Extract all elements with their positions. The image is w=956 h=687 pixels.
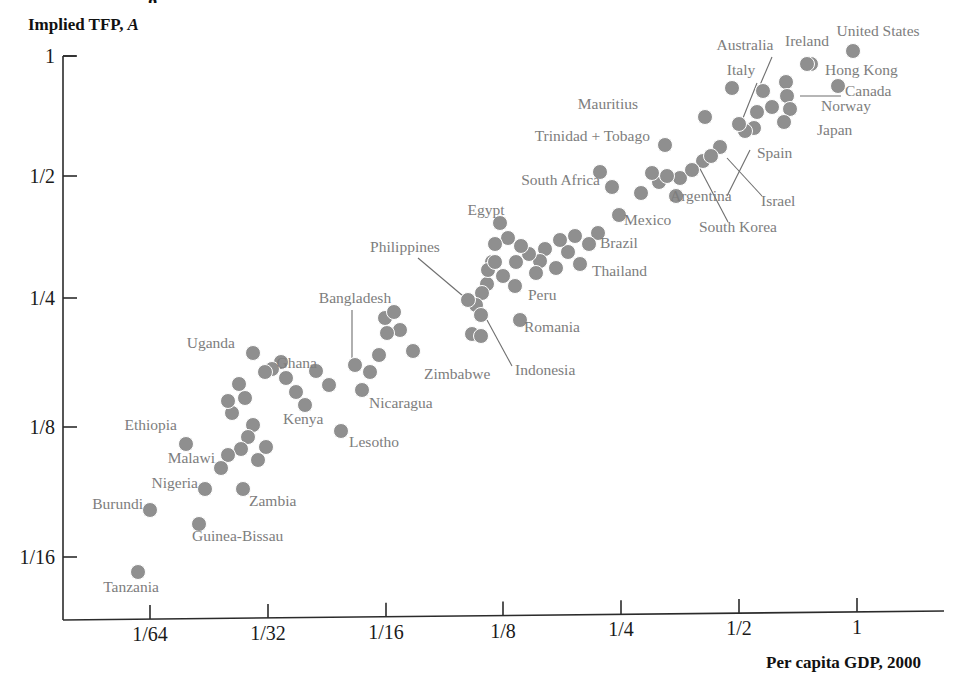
data-point [658,138,673,153]
point-label: Peru [528,286,557,303]
data-point [660,169,675,184]
x-axis-title: Per capita GDP, 2000 [766,653,921,672]
figure-container: g 11/21/41/81/16 1/641/321/161/81/41/21 … [0,0,956,687]
point-label: Guinea-Bissau [192,527,284,544]
point-label: Mexico [624,211,672,228]
leader-line [727,158,762,196]
data-point [334,424,349,439]
data-point [549,261,564,276]
data-point [756,84,771,99]
point-label: Ethiopia [124,416,177,433]
data-point [553,233,568,248]
data-point [634,186,649,201]
point-label: South Korea [699,218,777,235]
point-label: Mauritius [578,95,638,112]
data-point [698,110,713,125]
point-label: Ireland [785,32,829,49]
point-label: Romania [524,318,580,335]
point-label: Malawi [168,449,216,466]
point-label: Egypt [467,201,505,218]
point-label: Hong Kong [825,61,898,78]
data-point [246,346,261,361]
data-point [496,269,511,284]
data-point [214,461,229,476]
point-label: Lesotho [349,433,399,450]
data-point [221,394,236,409]
data-point [750,105,765,120]
data-point [406,344,421,359]
point-label: Italy [727,61,756,78]
scatter-plot: 11/21/41/81/16 1/641/321/161/81/41/21 Un… [0,0,956,687]
data-point [474,329,489,344]
data-point [258,365,273,380]
y-tick-label: 1/8 [29,416,55,438]
point-label: United States [836,22,919,39]
x-tick-label: 1/2 [726,617,752,639]
data-point [363,365,378,380]
y-axis-title-text: Implied TFP, [28,15,123,34]
data-point [279,371,294,386]
point-label: Argentina [670,187,732,204]
point-label: Norway [821,97,871,114]
data-point [372,348,387,363]
data-point [355,383,370,398]
data-point [509,255,524,270]
data-point [461,293,476,308]
x-tick-label: 1 [852,616,862,638]
point-label: Japan [817,121,853,138]
point-label: Spain [757,144,793,161]
point-label: Burundi [92,495,144,512]
data-point [143,503,158,518]
data-point [259,440,274,455]
data-point [765,100,780,115]
x-tick-label: 1/64 [132,623,168,645]
y-tick-label: 1/16 [19,546,55,568]
data-point [232,377,247,392]
data-point [238,391,253,406]
y-tick-label: 1 [45,45,55,67]
point-label: Ghana [277,354,318,371]
point-label: Uganda [187,334,235,351]
data-point [474,308,489,323]
x-tick-label: 1/4 [608,618,634,640]
data-point [251,453,266,468]
data-point [605,180,620,195]
data-point [582,237,597,252]
data-point [488,255,503,270]
point-label: Nigeria [152,474,199,491]
y-tick-group: 11/21/41/81/16 [19,45,77,568]
point-label: Israel [761,192,795,209]
y-axis-title-symbol: A [126,15,138,34]
data-point [348,358,363,373]
point-label: Brazil [600,234,638,251]
data-point [529,266,544,281]
data-point [846,44,861,59]
point-label: Philippines [370,238,440,255]
data-point [198,482,213,497]
data-point [322,378,337,393]
data-point [780,89,795,104]
data-point [289,385,304,400]
data-point [645,166,660,181]
point-label: Thailand [592,262,647,279]
data-point [514,239,529,254]
data-point [568,229,583,244]
point-label: Zimbabwe [424,365,490,382]
data-point [831,79,846,94]
data-point [380,326,395,341]
data-point [387,305,402,320]
x-tick-label: 1/32 [250,622,286,644]
x-tick-group: 1/641/321/161/81/41/21 [132,598,862,645]
y-tick-label: 1/2 [29,165,55,187]
point-label: Tanzania [103,578,159,595]
point-label: South Africa [521,171,600,188]
point-label: Trinidad + Tobago [535,127,651,144]
point-label: Australia [717,36,774,53]
data-point [725,81,740,96]
data-point [704,149,719,164]
data-point [508,279,523,294]
data-point [685,163,700,178]
data-point [777,115,792,130]
data-point [393,323,408,338]
data-point-group [131,44,861,580]
